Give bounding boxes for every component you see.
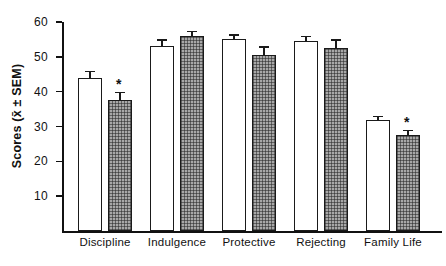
error-bar-cap [331,39,341,40]
error-bar-cap [115,92,125,93]
y-axis-tick [56,195,62,196]
y-axis-tick-labels: 605040302010 [22,18,56,232]
y-axis-tick-label: 10 [34,189,48,203]
error-bar-cap [301,36,311,37]
bar [324,48,348,231]
bar [222,39,246,231]
y-axis-tick-label: 40 [34,85,48,99]
bar [252,55,276,231]
error-bar-cap [229,34,239,35]
bar [78,78,102,231]
error-bar-cap [373,116,383,117]
bar [366,120,390,231]
x-axis-category-label: Indulgence [142,236,212,248]
x-axis-category-labels: DisciplineIndulgenceProtectiveRejectingF… [62,236,442,258]
y-axis-tick [56,126,62,127]
x-axis-category-label: Family Life [358,236,428,248]
x-axis-category-label: Rejecting [286,236,356,248]
y-axis-tick-label: 30 [34,120,48,134]
bar-chart-figure: Scores (x̄ ± SEM) 605040302010 ** Discip… [0,0,446,266]
y-axis-tick [56,21,62,22]
x-axis-line [62,231,442,233]
plot-area: ** [62,18,442,232]
bar [294,41,318,231]
y-axis-tick-label: 50 [34,50,48,64]
bar [396,135,420,231]
significance-star: * [116,77,121,91]
error-bar-cap [259,46,269,47]
error-bar-cap [157,39,167,40]
x-axis-category-label: Discipline [70,236,140,248]
y-axis-tick-label: 20 [34,154,48,168]
y-axis-tick [56,56,62,57]
y-axis-tick-label: 60 [34,15,48,29]
significance-star: * [404,115,409,129]
error-bar-cap [403,130,413,131]
y-axis-tick [56,91,62,92]
error-bar-cap [85,71,95,72]
y-axis-tick [56,161,62,162]
x-axis-category-label: Protective [214,236,284,248]
bar [108,100,132,231]
y-axis-line [62,22,64,232]
bar [150,46,174,231]
bar [180,36,204,231]
error-bar-cap [187,31,197,32]
